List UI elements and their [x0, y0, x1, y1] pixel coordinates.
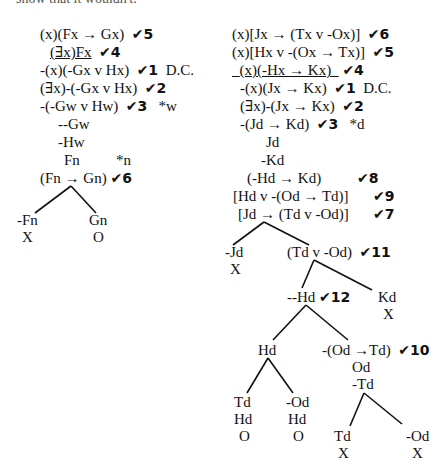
tree-branch-lines [0, 0, 445, 466]
